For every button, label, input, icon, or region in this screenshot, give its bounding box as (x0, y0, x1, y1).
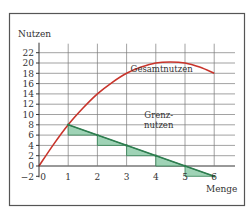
series-grenznutzen-line (68, 125, 214, 177)
utility-chart: 2220181614121086420−2 0123456 Nutzen Men… (0, 0, 249, 213)
y-tick-label: 16 (23, 79, 35, 89)
annotation-label: Gesamtnutzen (131, 64, 194, 74)
grenznutzen-point (96, 134, 98, 136)
y-axis-title: Nutzen (18, 29, 51, 39)
y-tick-label: 14 (23, 89, 35, 99)
x-axis-title: Menge (206, 184, 237, 194)
axes (36, 43, 39, 178)
grenznutzen-point (155, 155, 157, 157)
grenznutzen-point (67, 124, 69, 126)
x-tick-label: 5 (182, 172, 188, 182)
x-tick-label: 6 (211, 172, 217, 182)
x-tick-label: 0 (40, 172, 46, 182)
y-tick-label: 6 (28, 130, 34, 140)
x-tick-label: 3 (124, 172, 130, 182)
y-tick-label: 0 (28, 161, 34, 171)
y-tick-label: 18 (23, 69, 35, 79)
annotation-label: nutzen (144, 120, 174, 130)
x-tick-label: 2 (95, 172, 101, 182)
y-tick-label: 12 (23, 99, 34, 109)
x-tick-label: 1 (65, 172, 71, 182)
grenznutzen-point (184, 165, 186, 167)
y-tick-label: 4 (28, 141, 34, 151)
y-tick-label: 10 (23, 110, 35, 120)
annotations: GesamtnutzenGrenz-nutzen (131, 64, 194, 131)
y-tick-label: 22 (23, 48, 34, 58)
y-tick-label: −2 (21, 172, 34, 182)
series-lines (39, 62, 215, 178)
y-tick-labels: 2220181614121086420−2 (21, 48, 35, 182)
annotation-label: Grenz- (144, 110, 173, 120)
y-tick-label: 2 (28, 151, 34, 161)
y-tick-label: 8 (28, 120, 34, 130)
x-tick-label: 4 (153, 172, 159, 182)
y-tick-label: 20 (23, 58, 35, 68)
grenznutzen-point (125, 144, 127, 146)
grid (39, 44, 235, 166)
